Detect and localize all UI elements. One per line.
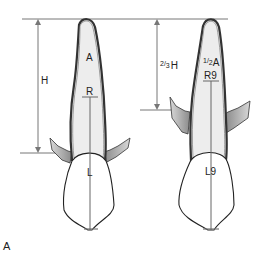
- crown: [179, 152, 234, 230]
- height-fraction-den: 3: [166, 62, 170, 69]
- height-label: H: [41, 75, 48, 86]
- alveolar-bone-left: [50, 138, 72, 163]
- root-label: R: [86, 86, 93, 97]
- alveolar-bone-left: [170, 97, 190, 134]
- crown-label: L: [87, 167, 93, 178]
- tooth-root-resorption-diagram: H A R L 2/3H: [0, 0, 261, 268]
- root-label: R9: [204, 70, 217, 81]
- height-suffix: H: [171, 60, 178, 71]
- crown: [63, 153, 114, 230]
- alveolar-bone-right: [104, 138, 130, 162]
- crown-label: L9: [205, 166, 217, 177]
- tooth-resorbed: 2/3H 1/2A R9 L9: [140, 19, 250, 230]
- height-label: 2/3H: [160, 60, 178, 71]
- panel-label: A: [3, 240, 11, 252]
- tooth-original: H A R L: [20, 19, 130, 230]
- apex-suffix: A: [213, 57, 220, 68]
- alveolar-bone-right: [225, 101, 250, 133]
- apex-label: A: [86, 52, 93, 63]
